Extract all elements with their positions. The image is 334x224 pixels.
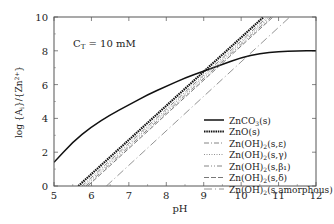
legend-label: Zn(OH)2(s,γ)	[229, 150, 287, 161]
y-tick-label: 6	[42, 80, 48, 91]
legend-label: Zn(OH)2(s,ε)	[229, 139, 286, 150]
legend-label: Zn(OH)2(s,amorphous)	[229, 185, 333, 196]
x-tick-label: 9	[201, 190, 207, 201]
y-tick-label: 10	[35, 12, 48, 23]
x-tick-label: 7	[126, 190, 132, 201]
chart: 567891011120246810 CT = 10 mM pH log {Ai…	[0, 0, 334, 224]
y-tick-label: 8	[42, 46, 48, 57]
svg-text:log {Ai}/{Zn2+}: log {Ai}/{Zn2+}	[13, 66, 25, 138]
y-tick-label: 2	[42, 147, 48, 158]
legend-label: Zn(OH)2(s,δ)	[229, 173, 287, 184]
x-tick-label: 6	[88, 190, 94, 201]
legend: ZnCO3(s)ZnO(s)Zn(OH)2(s,ε)Zn(OH)2(s,γ)Zn…	[204, 116, 333, 196]
y-tick-label: 4	[42, 113, 48, 124]
x-tick-label: 8	[163, 190, 169, 201]
legend-label: ZnCO3(s)	[229, 116, 271, 127]
legend-label: Zn(OH)2(s,β₁)	[229, 162, 290, 173]
y-axis-label: log {Ai}/{Zn2+}	[13, 66, 25, 138]
y-tick-label: 0	[42, 181, 48, 192]
annotation-ct: CT = 10 mM	[73, 38, 136, 51]
legend-label: ZnO(s)	[229, 127, 260, 137]
x-axis-label: pH	[172, 203, 187, 214]
x-tick-label: 5	[51, 190, 57, 201]
